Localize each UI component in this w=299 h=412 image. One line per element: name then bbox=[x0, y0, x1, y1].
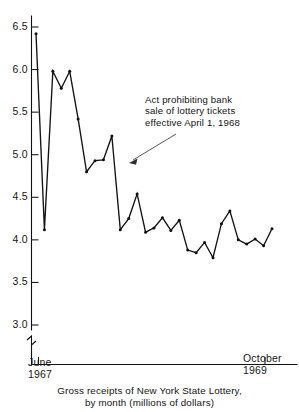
x-end-year: 1969 bbox=[243, 365, 282, 377]
data-point bbox=[153, 226, 156, 229]
data-point bbox=[136, 192, 139, 195]
y-tick-label: 3.0 bbox=[13, 319, 29, 330]
data-point bbox=[35, 32, 38, 35]
y-tick-label: 5.5 bbox=[13, 106, 29, 117]
data-series-line bbox=[36, 34, 272, 258]
data-point bbox=[77, 117, 80, 120]
data-series-points bbox=[35, 32, 274, 259]
data-point bbox=[254, 238, 257, 241]
y-axis-break-icon bbox=[27, 336, 36, 345]
data-point bbox=[94, 159, 97, 162]
caption-line-2: by month (millions of dollars) bbox=[0, 397, 299, 409]
x-start-year: 1967 bbox=[28, 369, 52, 381]
data-point bbox=[169, 229, 172, 232]
data-point bbox=[144, 231, 147, 234]
data-point bbox=[127, 217, 130, 220]
data-point bbox=[119, 228, 122, 231]
data-point bbox=[43, 228, 46, 231]
data-point bbox=[68, 70, 71, 73]
y-tick-label: 4.0 bbox=[13, 234, 29, 245]
data-point bbox=[245, 243, 248, 246]
x-start-month: June bbox=[28, 357, 52, 369]
x-tick-label-end: October 1969 bbox=[243, 353, 282, 376]
data-point bbox=[110, 134, 113, 137]
x-tick-marks bbox=[39, 357, 266, 365]
annotation-line-1: Act prohibiting bank bbox=[145, 94, 295, 105]
data-point bbox=[102, 158, 105, 161]
data-point bbox=[85, 170, 88, 173]
data-point bbox=[178, 219, 181, 222]
data-point bbox=[271, 227, 274, 230]
lottery-receipts-figure: 3.03.54.04.55.05.56.06.5 June 1967 Octob… bbox=[0, 0, 299, 412]
data-point bbox=[51, 70, 54, 73]
line-chart-plot bbox=[0, 0, 299, 412]
figure-caption: Gross receipts of New York State Lottery… bbox=[0, 385, 299, 409]
annotation-line-3: effective April 1, 1968 bbox=[145, 117, 295, 128]
data-point bbox=[212, 256, 215, 259]
data-point bbox=[237, 238, 240, 241]
caption-line-1: Gross receipts of New York State Lottery… bbox=[0, 385, 299, 397]
data-point bbox=[60, 87, 63, 90]
y-tick-label: 6.0 bbox=[13, 64, 29, 75]
x-tick-label-start: June 1967 bbox=[28, 357, 52, 380]
data-point bbox=[186, 249, 189, 252]
data-point bbox=[203, 241, 206, 244]
annotation-arrow-line bbox=[133, 134, 176, 160]
y-tick-label: 4.5 bbox=[13, 191, 29, 202]
y-tick-label: 6.5 bbox=[13, 21, 29, 32]
data-point bbox=[228, 209, 231, 212]
x-end-month: October bbox=[243, 353, 282, 365]
data-point bbox=[262, 244, 265, 247]
data-point bbox=[161, 216, 164, 219]
annotation-line-2: sale of lottery tickets bbox=[145, 105, 295, 116]
y-tick-label: 5.0 bbox=[13, 149, 29, 160]
y-tick-label: 3.5 bbox=[13, 276, 29, 287]
data-point bbox=[220, 222, 223, 225]
chart-annotation-text: Act prohibiting bank sale of lottery tic… bbox=[145, 94, 295, 128]
data-point bbox=[195, 251, 198, 254]
